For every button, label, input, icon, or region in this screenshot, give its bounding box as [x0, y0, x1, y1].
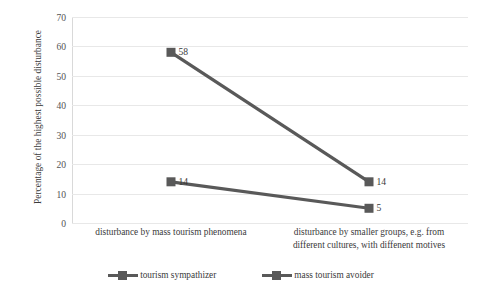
y-axis-tick-label: 20	[40, 159, 66, 170]
data-point-marker	[365, 177, 374, 186]
legend-marker-icon	[108, 270, 138, 281]
x-axis-category-label: disturbance by smaller groups, e.g. from…	[270, 226, 468, 254]
y-axis-tick-label: 60	[40, 41, 66, 52]
x-axis-category-label: disturbance by mass tourism phenomena	[72, 226, 270, 254]
gridline	[72, 223, 468, 224]
y-axis-tick-label: 70	[40, 12, 66, 23]
legend-item[interactable]: mass tourism avoider	[262, 270, 374, 281]
legend-item[interactable]: tourism sympathizer	[108, 270, 216, 281]
data-point-marker	[167, 48, 176, 57]
y-axis-tick-label: 0	[40, 218, 66, 229]
y-axis-tick-label: 40	[40, 100, 66, 111]
line-chart: Percentage of the highest possible distu…	[0, 0, 482, 298]
series-line	[171, 52, 369, 181]
data-point-label: 58	[179, 46, 189, 57]
data-point-marker	[365, 204, 374, 213]
chart-legend: tourism sympathizermass tourism avoider	[0, 270, 482, 281]
y-axis-tick-labels: 010203040506070	[38, 17, 66, 223]
y-axis-tick-label: 50	[40, 70, 66, 81]
data-point-label: 14	[179, 176, 189, 187]
plot-area: 5814145	[72, 17, 468, 223]
x-axis-category-labels: disturbance by mass tourism phenomenadis…	[72, 226, 468, 254]
legend-label: mass tourism avoider	[294, 270, 374, 281]
series-line	[171, 182, 369, 208]
y-axis-tick-label: 10	[40, 188, 66, 199]
data-point-marker	[167, 177, 176, 186]
data-point-label: 5	[377, 202, 382, 213]
data-point-label: 14	[377, 176, 387, 187]
legend-label: tourism sympathizer	[140, 270, 216, 281]
y-axis-tick-label: 30	[40, 129, 66, 140]
series-layer	[72, 17, 468, 223]
legend-marker-icon	[262, 270, 292, 281]
